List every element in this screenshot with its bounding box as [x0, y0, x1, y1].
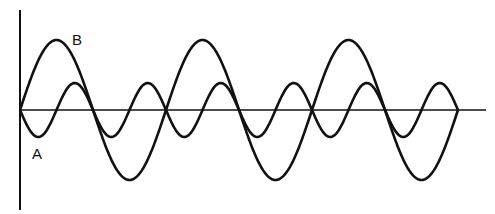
wave-b-label: B — [72, 32, 82, 47]
wave-a-label: A — [32, 146, 42, 161]
